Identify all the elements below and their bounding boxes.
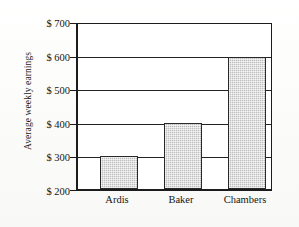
bars-layer xyxy=(78,24,271,189)
y-axis-tick-labels: $ 700 $ 600 $ 500 $ 400 $ 300 $ 200 xyxy=(26,0,70,227)
y-tick-label-700: $ 700 xyxy=(28,18,70,29)
bar-baker[interactable] xyxy=(164,123,202,189)
y-tick-label-500: $ 500 xyxy=(28,85,70,96)
x-tick-label-chambers: Chambers xyxy=(224,194,267,205)
y-tick-label-300: $ 300 xyxy=(28,152,70,163)
x-tick-label-baker: Baker xyxy=(168,194,193,205)
bar-ardis[interactable] xyxy=(100,156,138,189)
bar-chambers[interactable] xyxy=(228,57,266,189)
bar-chart-figure: Average weekly earnings $ 700 $ 600 $ 50… xyxy=(0,0,299,227)
plot-area xyxy=(76,23,272,191)
y-tick-label-600: $ 600 xyxy=(28,51,70,62)
x-tick-label-ardis: Ardis xyxy=(105,194,128,205)
y-tick-label-200: $ 200 xyxy=(28,186,70,197)
x-axis-tick-labels: Ardis Baker Chambers xyxy=(76,194,272,214)
y-tick-label-400: $ 400 xyxy=(28,118,70,129)
